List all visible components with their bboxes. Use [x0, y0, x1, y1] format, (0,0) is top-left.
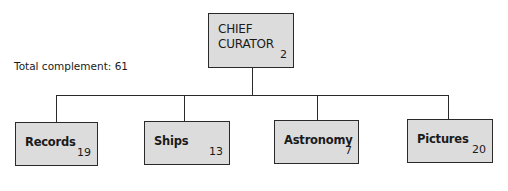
chief-curator-box: CHIEF CURATOR 2: [208, 13, 294, 68]
connector-root-vertical: [252, 68, 253, 96]
connector-ships: [184, 95, 185, 123]
connector-horizontal: [56, 95, 449, 96]
dept-box-astronomy: Astronomy 7: [274, 120, 359, 164]
chief-curator-label: CHIEF CURATOR: [218, 22, 274, 52]
dept-box-pictures: Pictures 20: [407, 119, 493, 163]
dept-box-ships: Ships 13: [144, 121, 230, 165]
chief-curator-count: 2: [280, 48, 287, 61]
connector-pictures: [448, 95, 449, 121]
dept-box-records: Records 19: [15, 122, 98, 166]
connector-astronomy: [317, 95, 318, 122]
connector-records: [56, 95, 57, 123]
total-complement: Total complement: 61: [14, 60, 128, 72]
